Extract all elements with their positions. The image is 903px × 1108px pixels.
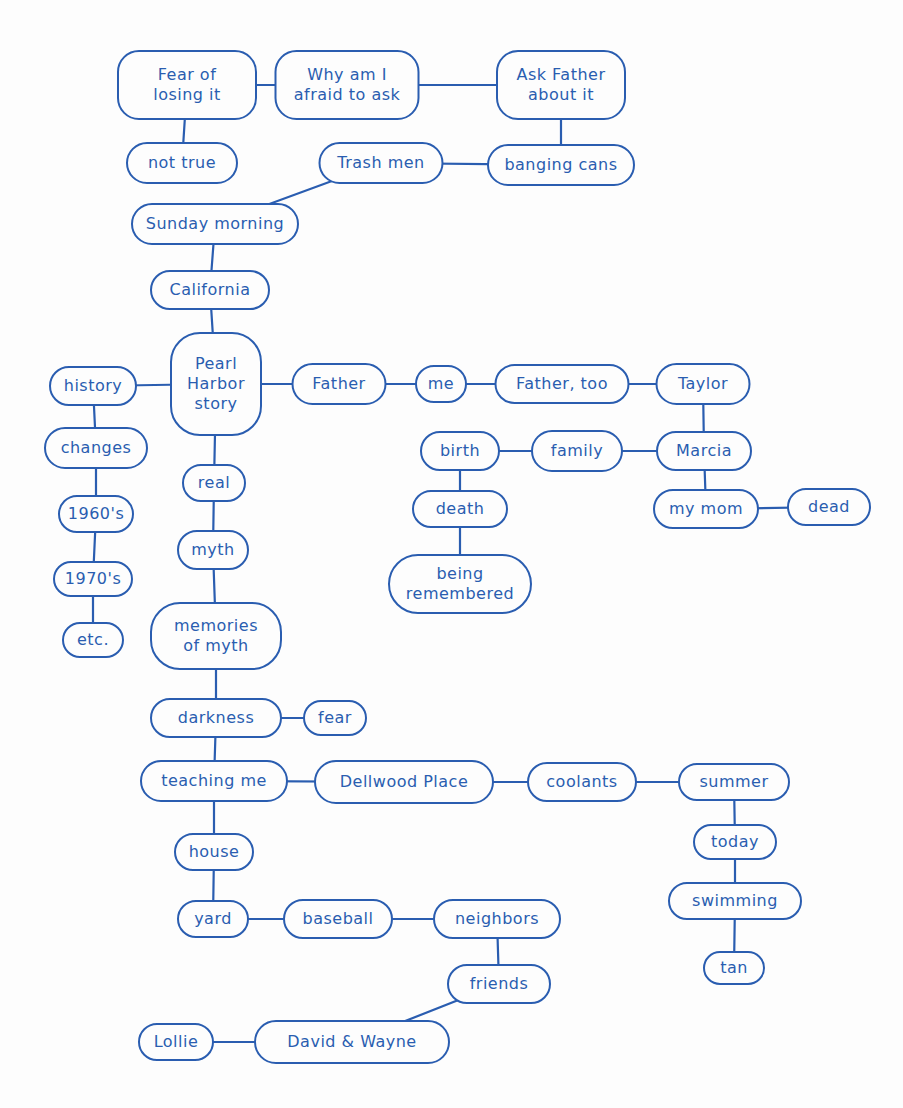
node-sunday-morning: Sunday morning xyxy=(131,203,299,245)
node-teaching-me: teaching me xyxy=(140,760,288,802)
node-history: history xyxy=(49,366,137,406)
node-swimming: swimming xyxy=(668,882,802,920)
node-tan: tan xyxy=(703,951,765,985)
node-dead: dead xyxy=(787,488,871,526)
node-california: California xyxy=(150,270,270,310)
node-memories-of-myth: memories of myth xyxy=(150,602,282,670)
node-not-true: not true xyxy=(126,142,238,184)
node-pearl-harbor-story: Pearl Harbor story xyxy=(170,332,262,436)
node-summer: summer xyxy=(678,763,790,801)
node-death: death xyxy=(412,490,508,528)
node-fear-of-losing-it: Fear of losing it xyxy=(117,50,257,120)
node-yard: yard xyxy=(177,900,249,938)
node-why-am-i-afraid: Why am I afraid to ask xyxy=(275,50,420,120)
node-dellwood-place: Dellwood Place xyxy=(314,760,494,804)
node-1970s: 1970's xyxy=(53,561,133,597)
node-family: family xyxy=(531,430,623,472)
node-david-wayne: David & Wayne xyxy=(254,1020,450,1064)
node-birth: birth xyxy=(420,431,500,471)
node-being-remembered: being remembered xyxy=(388,554,532,614)
node-changes: changes xyxy=(44,427,148,469)
node-trash-men: Trash men xyxy=(319,142,444,184)
node-lollie: Lollie xyxy=(138,1023,214,1061)
node-marcia: Marcia xyxy=(656,431,752,471)
node-fear: fear xyxy=(303,700,367,736)
node-1960s: 1960's xyxy=(58,495,134,533)
mind-map: Fear of losing itWhy am I afraid to askA… xyxy=(0,0,903,1108)
node-darkness: darkness xyxy=(150,698,282,738)
node-ask-father: Ask Father about it xyxy=(496,50,626,120)
node-taylor: Taylor xyxy=(656,363,751,405)
node-baseball: baseball xyxy=(283,899,393,939)
node-coolants: coolants xyxy=(527,762,637,802)
node-banging-cans: banging cans xyxy=(487,144,635,186)
node-house: house xyxy=(174,833,254,871)
node-friends: friends xyxy=(447,964,551,1004)
node-my-mom: my mom xyxy=(653,489,759,529)
node-father: Father xyxy=(292,363,387,405)
node-father-too: Father, too xyxy=(495,364,630,404)
node-real: real xyxy=(182,464,246,502)
node-me: me xyxy=(415,365,467,403)
node-neighbors: neighbors xyxy=(433,899,561,939)
node-today: today xyxy=(693,824,777,860)
node-myth: myth xyxy=(177,530,249,570)
node-etc: etc. xyxy=(62,622,124,658)
